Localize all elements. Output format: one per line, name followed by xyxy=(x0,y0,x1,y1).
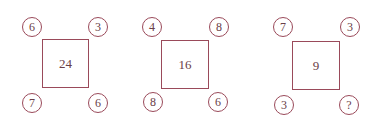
top-right-circle: 8 xyxy=(209,17,229,37)
circle-number: 3 xyxy=(347,21,353,33)
bottom-left-circle: 7 xyxy=(22,93,42,113)
puzzle-panel-3: 7 3 9 3 ? xyxy=(250,0,375,127)
circle-number: 3 xyxy=(95,21,101,33)
circle-number: 3 xyxy=(281,99,287,111)
puzzle-panel-2: 4 8 16 8 6 xyxy=(125,0,250,127)
bottom-right-circle: 6 xyxy=(208,92,228,112)
puzzle-panel-1: 6 3 24 7 6 xyxy=(0,0,125,127)
bottom-right-circle: 6 xyxy=(88,93,108,113)
center-number: 24 xyxy=(59,56,72,72)
center-square: 9 xyxy=(292,41,340,90)
circle-number: 8 xyxy=(150,96,156,108)
circle-number: 6 xyxy=(29,21,35,33)
question-mark: ? xyxy=(346,99,351,111)
center-square: 16 xyxy=(161,40,209,89)
circle-number: 6 xyxy=(215,96,221,108)
center-square: 24 xyxy=(42,39,89,88)
top-left-circle: 6 xyxy=(22,17,42,37)
circle-number: 8 xyxy=(216,21,222,33)
circle-number: 4 xyxy=(149,21,155,33)
center-number: 9 xyxy=(313,58,320,74)
top-left-circle: 4 xyxy=(142,17,162,37)
circle-number: 7 xyxy=(280,21,286,33)
bottom-left-circle: 3 xyxy=(274,95,294,115)
bottom-right-circle-unknown: ? xyxy=(339,95,359,115)
top-left-circle: 7 xyxy=(273,17,293,37)
circle-number: 6 xyxy=(95,97,101,109)
top-right-circle: 3 xyxy=(88,17,108,37)
center-number: 16 xyxy=(179,57,192,73)
top-right-circle: 3 xyxy=(340,17,360,37)
bottom-left-circle: 8 xyxy=(143,92,163,112)
circle-number: 7 xyxy=(29,97,35,109)
